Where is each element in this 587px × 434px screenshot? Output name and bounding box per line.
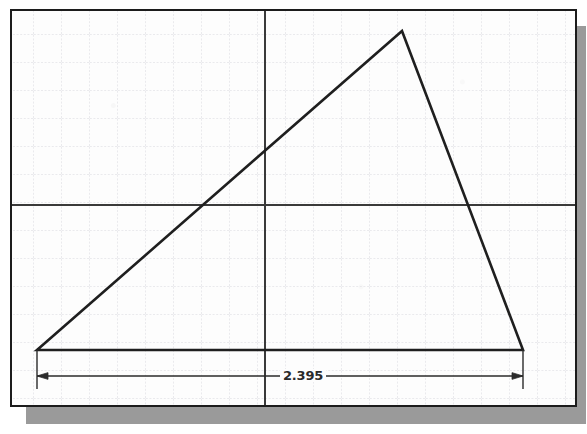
dimension-arrow-right: [512, 373, 523, 380]
dimension-value-label[interactable]: 2.395: [280, 369, 326, 382]
dimension-arrow-left: [37, 373, 48, 380]
sketch-sheet-frame[interactable]: 2.395: [10, 9, 577, 407]
dimension-annotation[interactable]: [12, 11, 575, 405]
cad-sketch-viewport: 2.395: [0, 0, 587, 434]
